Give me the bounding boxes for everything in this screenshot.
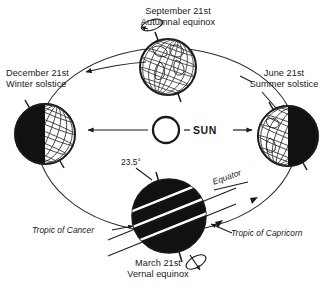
label-june-event: Summer solstice <box>238 79 330 90</box>
label-september-date: September 21st <box>118 6 238 17</box>
label-march-equinox: March 21st Vernal equinox <box>104 258 212 280</box>
leader-line-icon <box>211 224 232 233</box>
label-september-equinox: September 21st Autumnal equinox <box>118 6 238 28</box>
label-tropic-of-capricorn: Tropic of Capricorn <box>231 228 303 239</box>
label-september-event: Autumnal equinox <box>118 17 238 28</box>
label-sun: SUN <box>193 125 217 136</box>
sun-body <box>153 117 179 143</box>
label-june-date: June 21st <box>238 68 330 79</box>
globe-september <box>86 17 205 105</box>
label-june-solstice: June 21st Summer solstice <box>238 68 330 90</box>
globe-december <box>5 91 86 176</box>
label-tropic-of-cancer: Tropic of Cancer <box>32 225 94 236</box>
label-march-event: Vernal equinox <box>104 269 212 280</box>
leader-line-icon <box>262 92 276 108</box>
label-december-date: December 21st <box>6 68 102 79</box>
leader-line-icon <box>136 168 152 180</box>
label-axial-tilt: 23.5° <box>114 157 148 168</box>
globe-june <box>248 93 329 178</box>
label-march-date: March 21st <box>104 258 212 269</box>
globe-march <box>108 168 248 272</box>
label-december-event: Winter solstice <box>6 79 102 90</box>
label-december-solstice: December 21st Winter solstice <box>6 68 102 90</box>
diagram-canvas <box>0 0 333 290</box>
seasons-diagram: September 21st Autumnal equinox December… <box>0 0 333 290</box>
